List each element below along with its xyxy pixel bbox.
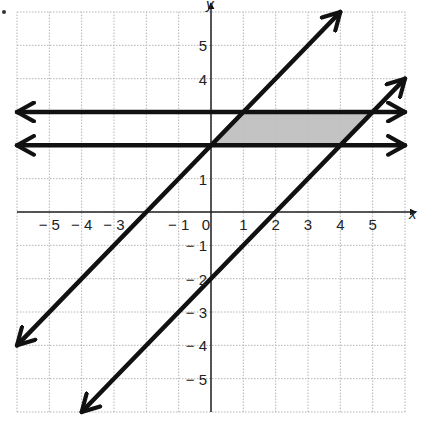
x-tick-label: 1 bbox=[239, 216, 247, 233]
y-tick-label: − 3 bbox=[186, 304, 207, 321]
y-tick-label: − 2 bbox=[186, 271, 207, 288]
coordinate-graph: − 5− 4− 3− 1012345541− 1− 2− 3− 4− 5 x y bbox=[0, 0, 421, 437]
x-axis-label: x bbox=[408, 205, 417, 222]
y-tick-label: 4 bbox=[199, 71, 207, 88]
x-tick-label: 0 bbox=[202, 216, 210, 233]
y-tick-label: − 1 bbox=[186, 237, 207, 254]
x-tick-label: − 4 bbox=[71, 216, 92, 233]
y-tick-label: 5 bbox=[199, 37, 207, 54]
x-tick-label: 2 bbox=[271, 216, 279, 233]
x-tick-label: 4 bbox=[336, 216, 344, 233]
y-tick-label: − 5 bbox=[186, 371, 207, 388]
x-tick-label: 3 bbox=[304, 216, 312, 233]
y-tick-label: 1 bbox=[199, 171, 207, 188]
x-tick-label: − 3 bbox=[103, 216, 124, 233]
shaded-parallelogram bbox=[211, 112, 373, 145]
y-tick-label: − 4 bbox=[186, 337, 207, 354]
y-axis-label: y bbox=[205, 0, 215, 12]
x-tick-label: 5 bbox=[368, 216, 376, 233]
x-tick-label: − 5 bbox=[39, 216, 60, 233]
x-tick-label: − 1 bbox=[168, 216, 189, 233]
axes bbox=[17, 3, 416, 412]
